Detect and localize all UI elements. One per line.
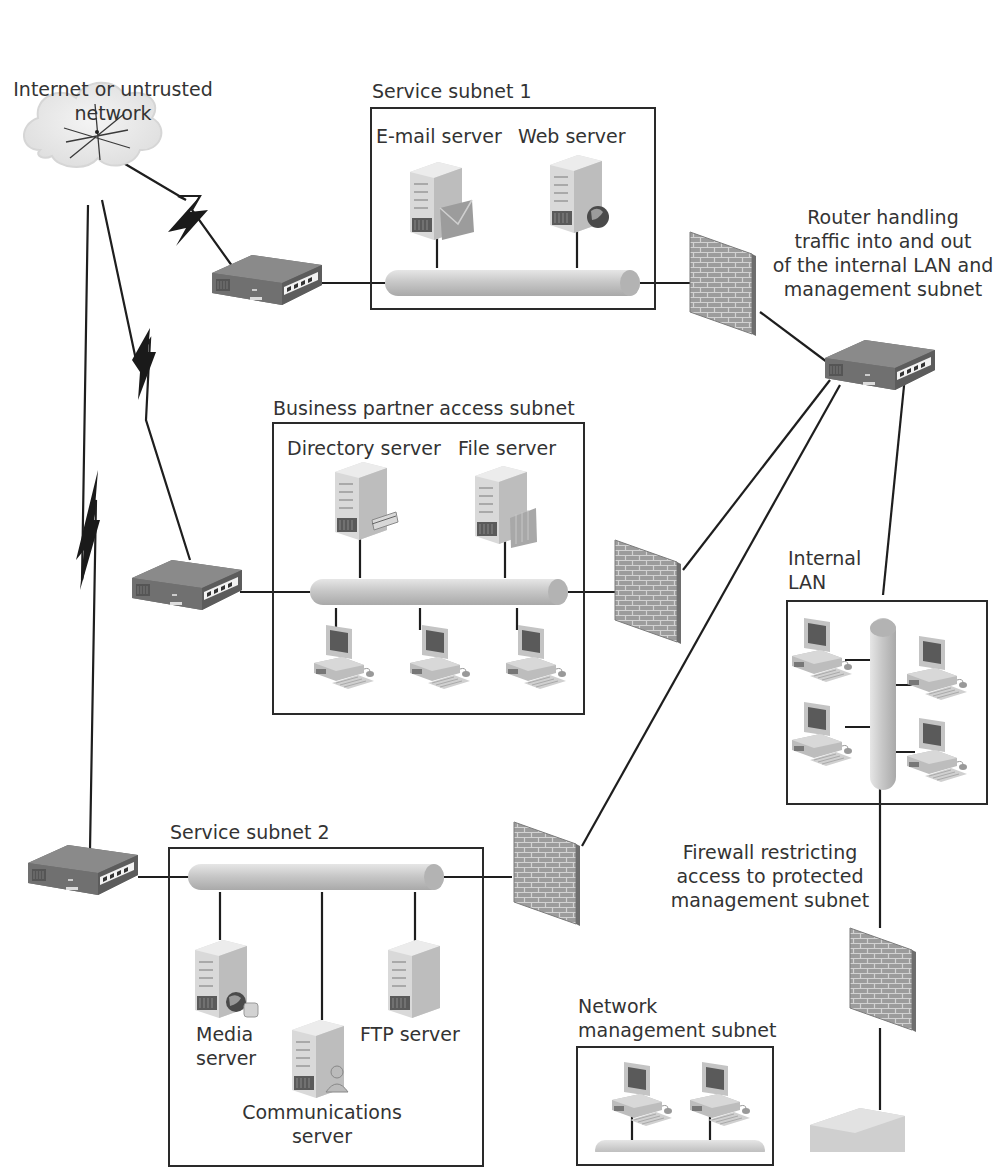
internal-lan-title: Internal LAN <box>788 546 861 594</box>
main-router-label-line-1: Router handling <box>758 205 1005 229</box>
router-service-subnet-2 <box>28 845 138 895</box>
file-server-label: File server <box>458 436 556 460</box>
router-internal-lan <box>825 340 935 390</box>
internal-lan-title-line-1: Internal <box>788 546 861 570</box>
management-subnet-title-line-2: management subnet <box>578 1018 777 1042</box>
business-partner-subnet-box <box>272 422 585 715</box>
communications-server-label: Communications server <box>222 1100 422 1148</box>
media-server-label: Media server <box>196 1022 256 1070</box>
directory-server-label: Directory server <box>287 436 441 460</box>
mgmt-firewall-label-line-2: access to protected <box>660 864 880 888</box>
internet-label: Internet or untrusted network <box>8 77 218 125</box>
router-management-subnet <box>810 1108 905 1152</box>
service-subnet-1-title: Service subnet 1 <box>372 79 532 103</box>
internet-label-line-1: Internet or untrusted <box>8 77 218 101</box>
business-partner-subnet-title: Business partner access subnet <box>273 396 575 420</box>
firewall-service-subnet-1 <box>690 232 756 336</box>
communications-server-label-line-1: Communications <box>222 1100 422 1124</box>
ftp-server-label: FTP server <box>360 1022 460 1046</box>
main-router-label: Router handling traffic into and out of … <box>758 205 1005 301</box>
firewall-management-subnet <box>850 928 916 1032</box>
mgmt-firewall-label-line-3: management subnet <box>660 888 880 912</box>
internet-label-line-2: network <box>8 101 218 125</box>
main-router-label-line-4: management subnet <box>758 277 1005 301</box>
firewall-service-subnet-2 <box>514 822 580 926</box>
main-router-label-line-2: traffic into and out <box>758 229 1005 253</box>
management-subnet-box <box>576 1046 774 1166</box>
internal-lan-title-line-2: LAN <box>788 570 861 594</box>
management-subnet-title-line-1: Network <box>578 994 777 1018</box>
mgmt-firewall-label-line-1: Firewall restricting <box>660 840 880 864</box>
internal-lan-box <box>786 600 988 805</box>
wireless-links <box>76 196 208 590</box>
management-subnet-title: Network management subnet <box>578 994 777 1042</box>
router-partner-subnet <box>132 560 242 610</box>
media-server-label-line-2: server <box>196 1046 256 1070</box>
web-server-label: Web server <box>518 124 626 148</box>
media-server-label-line-1: Media <box>196 1022 256 1046</box>
mgmt-firewall-label: Firewall restricting access to protected… <box>660 840 880 912</box>
service-subnet-2-title: Service subnet 2 <box>170 820 330 844</box>
communications-server-label-line-2: server <box>222 1124 422 1148</box>
email-server-label: E-mail server <box>376 124 502 148</box>
firewall-partner-subnet <box>615 540 681 644</box>
main-router-label-line-3: of the internal LAN and <box>758 253 1005 277</box>
